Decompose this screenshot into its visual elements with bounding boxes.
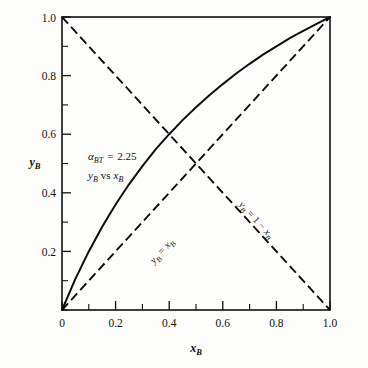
x-tick-label-5: 1.0 bbox=[323, 317, 338, 329]
x-axis-title-var: x bbox=[189, 341, 196, 355]
y-tick-label-4: 0.8 bbox=[42, 70, 57, 82]
curve-annotation: yBvsxB bbox=[87, 169, 123, 184]
alpha-annotation: αBT=2.25 bbox=[88, 150, 137, 165]
x-tick-label-1: 0.2 bbox=[108, 317, 123, 329]
curve-annot-y-sub: B bbox=[93, 175, 98, 184]
alpha-equals: = bbox=[107, 150, 113, 162]
x-tick-label-0: 0 bbox=[59, 317, 65, 329]
y-axis-title-sub: B bbox=[34, 161, 41, 171]
y-axis-ticks bbox=[62, 17, 71, 310]
equilibrium-diagram-figure: 0 0.2 0.4 0.6 0.8 1.0 0.2 0.4 0.6 0.8 1.… bbox=[0, 0, 368, 368]
y-tick-label-5: 1.0 bbox=[42, 12, 57, 24]
diagonal-up-label: yB=xB bbox=[147, 236, 178, 268]
y-tick-labels: 0.2 0.4 0.6 0.8 1.0 bbox=[42, 12, 57, 258]
chart-svg: 0 0.2 0.4 0.6 0.8 1.0 0.2 0.4 0.6 0.8 1.… bbox=[0, 0, 368, 368]
x-tick-label-3: 0.6 bbox=[216, 317, 231, 329]
x-tick-label-4: 0.8 bbox=[269, 317, 284, 329]
y-tick-label-2: 0.4 bbox=[42, 187, 57, 199]
diagonal-down-label: yB=1−xB bbox=[234, 198, 277, 243]
curve-annot-vs: vs bbox=[101, 169, 111, 181]
x-tick-labels: 0 0.2 0.4 0.6 0.8 1.0 bbox=[59, 317, 337, 329]
y-axis-title: yB bbox=[28, 155, 41, 171]
x-tick-label-2: 0.4 bbox=[162, 317, 177, 329]
alpha-subscript: BT bbox=[94, 156, 104, 165]
alpha-value: 2.25 bbox=[117, 150, 137, 162]
x-axis-ticks bbox=[62, 301, 330, 310]
y-tick-label-1: 0.2 bbox=[42, 246, 57, 258]
x-axis-title: xB bbox=[189, 341, 202, 357]
x-axis-title-sub: B bbox=[195, 347, 202, 357]
y-tick-label-3: 0.6 bbox=[42, 128, 57, 140]
curve-annot-x-sub: B bbox=[118, 175, 123, 184]
